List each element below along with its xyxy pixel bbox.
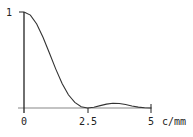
mtf-curve: [24, 12, 151, 108]
x-tick-label-5: 5: [148, 116, 154, 127]
y-tick-label-1: 1: [6, 7, 12, 18]
x-tick-label-0: 0: [21, 116, 27, 127]
plot-area: [18, 12, 152, 113]
x-axis-unit-label: c/mm: [162, 116, 186, 127]
mtf-chart: 1 0 2.5 5 c/mm: [0, 0, 193, 137]
x-tick-label-2.5: 2.5: [79, 116, 97, 127]
